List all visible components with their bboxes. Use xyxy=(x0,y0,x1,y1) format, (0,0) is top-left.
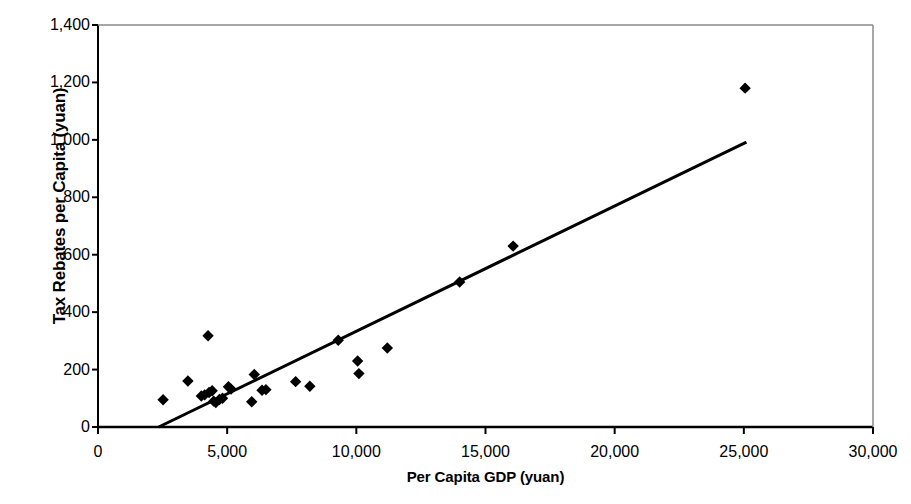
data-point-marker xyxy=(333,335,344,346)
data-point-marker xyxy=(507,240,518,251)
axes-group xyxy=(98,25,873,427)
x-axis-tick-label: 0 xyxy=(38,444,158,460)
x-axis-tick-label: 20,000 xyxy=(555,444,675,460)
plot-area xyxy=(98,25,873,427)
y-axis-tick-label: 1,400 xyxy=(4,17,90,33)
x-axis-tick-label: 25,000 xyxy=(684,444,804,460)
scatter-chart-figure: Tax Rebates per Capita (yuan) 0200400600… xyxy=(0,0,911,504)
trend-line xyxy=(159,142,747,427)
data-points-group xyxy=(157,82,750,408)
y-axis-tick-label: 0 xyxy=(4,419,90,435)
y-axis-tick-label: 600 xyxy=(4,247,90,263)
y-axis-tick-label: 200 xyxy=(4,362,90,378)
y-axis-tick-label: 1,000 xyxy=(4,132,90,148)
data-point-marker xyxy=(202,330,213,341)
data-point-marker xyxy=(182,375,193,386)
y-axis-tick-label: 800 xyxy=(4,189,90,205)
data-point-marker xyxy=(352,355,363,366)
x-axis-tick-label: 10,000 xyxy=(296,444,416,460)
x-axis-tick-label: 15,000 xyxy=(426,444,546,460)
y-axis-tick-label: 400 xyxy=(4,304,90,320)
x-axis-title: Per Capita GDP (yuan) xyxy=(98,468,873,485)
data-point-marker xyxy=(353,368,364,379)
data-point-marker xyxy=(739,82,750,93)
data-point-marker xyxy=(246,396,257,407)
data-point-marker xyxy=(290,376,301,387)
trend-line-segment xyxy=(159,142,747,427)
x-axis-tick-label: 5,000 xyxy=(167,444,287,460)
plot-canvas xyxy=(98,25,873,427)
data-point-marker xyxy=(304,381,315,392)
x-axis-tick-label: 30,000 xyxy=(813,444,911,460)
data-point-marker xyxy=(382,342,393,353)
y-axis-tick-label: 1,200 xyxy=(4,74,90,90)
y-axis-title: Tax Rebates per Capita (yuan) xyxy=(50,0,70,416)
axis-ticks-group xyxy=(92,25,873,434)
data-point-marker xyxy=(157,394,168,405)
